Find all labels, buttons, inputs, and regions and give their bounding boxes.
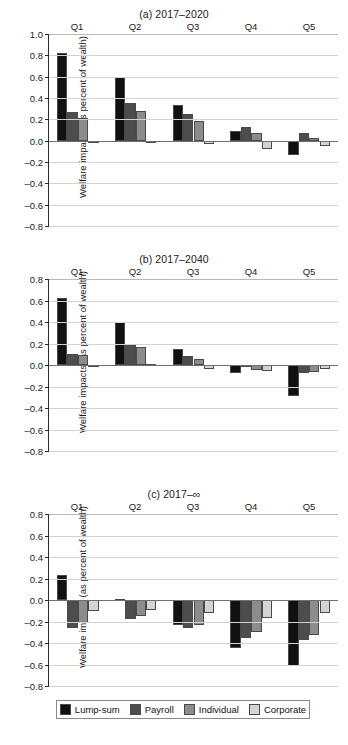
bar bbox=[67, 600, 77, 628]
bar bbox=[78, 600, 88, 623]
gridline bbox=[49, 643, 338, 644]
category-label: Q1 bbox=[71, 266, 84, 277]
gridline bbox=[49, 579, 338, 580]
y-axis-tick-label: 0.0 bbox=[30, 595, 43, 606]
gridline bbox=[49, 365, 338, 366]
gridline bbox=[49, 600, 338, 601]
gridline bbox=[49, 536, 338, 537]
y-axis-tick bbox=[45, 387, 49, 388]
y-axis-tick bbox=[45, 162, 49, 163]
bar bbox=[320, 600, 330, 613]
bar bbox=[146, 600, 156, 610]
panel-a-category-labels: Q1Q2Q3Q4Q5 bbox=[48, 20, 338, 34]
category-label: Q3 bbox=[187, 501, 200, 512]
bar bbox=[241, 127, 251, 141]
panel-a-plot-area: 1.00.80.60.40.20.0–0.2–0.4–0.6–0.8 bbox=[48, 34, 338, 226]
y-axis-tick bbox=[45, 226, 49, 227]
bar bbox=[67, 112, 77, 141]
welfare-impacts-figure: (a) 2017–2020 Welfare impacts (as percen… bbox=[0, 0, 348, 745]
y-axis-tick-label: 0.6 bbox=[30, 530, 43, 541]
bar bbox=[125, 103, 135, 141]
y-axis-tick-label: –0.2 bbox=[25, 381, 44, 392]
y-axis-tick-label: 0.2 bbox=[30, 338, 43, 349]
legend-swatch-icon bbox=[249, 704, 260, 715]
y-axis-tick-label: –0.8 bbox=[25, 221, 44, 232]
gridline bbox=[49, 34, 338, 35]
gridline bbox=[49, 387, 338, 388]
chart-panel-b: (b) 2017–2040 Welfare impacts (as percen… bbox=[0, 253, 348, 451]
legend-swatch-icon bbox=[184, 704, 195, 715]
y-axis-tick-label: 0.2 bbox=[30, 114, 43, 125]
category-label: Q2 bbox=[129, 21, 142, 32]
bar bbox=[183, 356, 193, 365]
gridline bbox=[49, 183, 338, 184]
y-axis-tick-label: 0.2 bbox=[30, 573, 43, 584]
legend-label: Individual bbox=[199, 704, 239, 715]
category-label: Q1 bbox=[71, 501, 84, 512]
y-axis-tick bbox=[45, 77, 49, 78]
panel-c-category-labels: Q1Q2Q3Q4Q5 bbox=[48, 500, 338, 514]
bar bbox=[262, 141, 272, 150]
y-axis-tick-label: 0.4 bbox=[30, 552, 43, 563]
y-axis-tick bbox=[45, 579, 49, 580]
category-label: Q5 bbox=[303, 501, 316, 512]
y-axis-tick-label: –0.4 bbox=[25, 638, 44, 649]
gridline bbox=[49, 557, 338, 558]
bar bbox=[136, 111, 146, 140]
y-axis-tick-label: –0.6 bbox=[25, 199, 44, 210]
gridline bbox=[49, 344, 338, 345]
category-label: Q1 bbox=[71, 21, 84, 32]
y-axis-tick-label: –0.2 bbox=[25, 157, 44, 168]
bar bbox=[57, 53, 67, 140]
y-axis-tick bbox=[45, 55, 49, 56]
bar bbox=[136, 347, 146, 365]
panel-a-bars bbox=[49, 34, 338, 226]
bar bbox=[115, 77, 125, 141]
bar bbox=[67, 354, 77, 365]
y-axis-tick bbox=[45, 119, 49, 120]
bar bbox=[125, 600, 135, 619]
y-axis-tick bbox=[45, 365, 49, 366]
panel-c-plot-area: 0.80.60.40.20.0–0.2–0.4–0.6–0.8 bbox=[48, 514, 338, 686]
bar bbox=[251, 600, 261, 632]
gridline bbox=[49, 514, 338, 515]
y-axis-tick-label: 0.0 bbox=[30, 360, 43, 371]
y-axis-tick-label: –0.4 bbox=[25, 403, 44, 414]
y-axis-tick-label: 1.0 bbox=[30, 29, 43, 40]
y-axis-tick bbox=[45, 279, 49, 280]
gridline bbox=[49, 98, 338, 99]
gridline bbox=[49, 451, 338, 452]
panel-b-title: (b) 2017–2040 bbox=[0, 253, 348, 265]
bar bbox=[288, 141, 298, 155]
gridline bbox=[49, 665, 338, 666]
chart-legend: Lump-sumPayrollIndividualCorporate bbox=[56, 700, 310, 719]
category-label: Q5 bbox=[303, 21, 316, 32]
y-axis-tick bbox=[45, 301, 49, 302]
bar bbox=[204, 600, 214, 613]
y-axis-tick bbox=[45, 430, 49, 431]
y-axis-tick-label: 0.8 bbox=[30, 509, 43, 520]
gridline bbox=[49, 430, 338, 431]
gridline bbox=[49, 408, 338, 409]
panel-b-category-labels: Q1Q2Q3Q4Q5 bbox=[48, 265, 338, 279]
gridline bbox=[49, 119, 338, 120]
category-label: Q4 bbox=[245, 501, 258, 512]
bar bbox=[299, 133, 309, 140]
y-axis-tick-label: –0.8 bbox=[25, 681, 44, 692]
y-axis-tick bbox=[45, 408, 49, 409]
legend-swatch-icon bbox=[130, 704, 141, 715]
category-label: Q4 bbox=[245, 21, 258, 32]
panel-b-plot-area: 0.80.60.40.20.0–0.2–0.4–0.6–0.8 bbox=[48, 279, 338, 451]
category-label: Q2 bbox=[129, 266, 142, 277]
panel-a-title: (a) 2017–2020 bbox=[0, 8, 348, 20]
y-axis-tick bbox=[45, 322, 49, 323]
bar bbox=[251, 133, 261, 141]
gridline bbox=[49, 686, 338, 687]
bar bbox=[262, 600, 272, 618]
legend-item: Payroll bbox=[130, 704, 174, 715]
y-axis-tick-label: 0.8 bbox=[30, 50, 43, 61]
legend-swatch-icon bbox=[60, 704, 71, 715]
bar bbox=[136, 600, 146, 616]
bar bbox=[230, 365, 240, 373]
y-axis-tick-label: –0.2 bbox=[25, 616, 44, 627]
